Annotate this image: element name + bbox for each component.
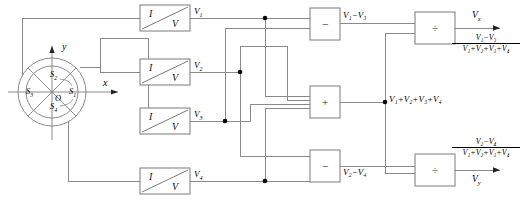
iv-block-1-output-label: V: [172, 18, 178, 29]
output-label-vy: Vy: [472, 175, 481, 186]
iv-block-3-output-label: V: [172, 121, 178, 132]
wire-sum-to-divtop: [385, 33, 415, 102]
output-expression-vx: V₁−V₃ V₁+V₂+V₃+V₄: [452, 33, 520, 53]
arrowhead-vy: [493, 167, 500, 173]
wire-s4-to-iv4: [68, 116, 140, 181]
iv-block-2-output-label: V: [172, 72, 178, 83]
output-expression-vy: V₂−V₄ V₁+V₂+V₃+V₄: [452, 137, 520, 157]
signal-label-diff-top: V₁−V₃: [343, 11, 366, 20]
arrowhead-vx: [493, 25, 500, 31]
wire-v3-to-difftop: [225, 28, 310, 121]
detector-segment-s2: S2: [50, 70, 57, 81]
junction-sum: [383, 100, 388, 105]
output-vy-denominator: V₁+V₂+V₃+V₄: [452, 147, 520, 158]
iv-block-4-input-label: I: [149, 171, 152, 182]
wire-v2-to-sum: [240, 46, 310, 100]
signal-label-diff-bottom: V₂−V₄: [343, 168, 366, 177]
iv-block-2-input-label: I: [149, 62, 152, 73]
output-vy-numerator: V₂−V₄: [452, 137, 520, 147]
div-top-symbol: ÷: [415, 22, 455, 34]
diff-top-symbol: −: [310, 18, 340, 30]
signal-label-v3: V3: [194, 110, 203, 121]
junction-v2: [238, 70, 243, 75]
sum-symbol: +: [310, 96, 340, 108]
detector-segment-s4: S4: [50, 102, 57, 113]
wire-v3-to-sum: [225, 104, 310, 121]
detector-segment-s3: S3: [26, 87, 33, 98]
arrowhead-x-axis: [111, 89, 118, 94]
quadrant-detector-circuit-diagram: y x O S1 S2 S3 S4 I V I V I V I V V1 V2 …: [0, 0, 524, 203]
detector-y-axis-label: y: [62, 42, 66, 52]
output-vx-denominator: V₁+V₂+V₃+V₄: [452, 43, 520, 54]
output-vx-numerator: V₁−V₃: [452, 33, 520, 43]
wire-sum-to-divbottom: [385, 102, 415, 173]
wire-s1-to-iv2: [80, 67, 140, 72]
iv-block-diagonals: [142, 7, 188, 192]
iv-block-4-output-label: V: [172, 181, 178, 192]
div-bottom-symbol: ÷: [415, 164, 455, 176]
output-label-vx: Vx: [472, 11, 481, 22]
arrowhead-y-axis: [49, 46, 54, 53]
detector-graphic: [8, 46, 118, 140]
detector-x-axis-label: x: [103, 78, 107, 88]
signal-label-sum: V₁+V₂+V₃+V₄: [389, 95, 442, 104]
junction-v4: [263, 179, 268, 184]
detector-segment-s1: S1: [69, 87, 76, 98]
junction-v1: [263, 16, 268, 21]
signal-label-v2: V2: [194, 61, 203, 72]
iv-block-1-input-label: I: [149, 8, 152, 19]
diff-bottom-symbol: −: [310, 160, 340, 172]
signal-label-v1: V1: [194, 7, 203, 18]
junction-v3: [223, 119, 228, 124]
wire-v4-to-sum: [265, 108, 310, 181]
signal-label-v4: V4: [194, 170, 203, 181]
iv-block-3-input-label: I: [149, 111, 152, 122]
